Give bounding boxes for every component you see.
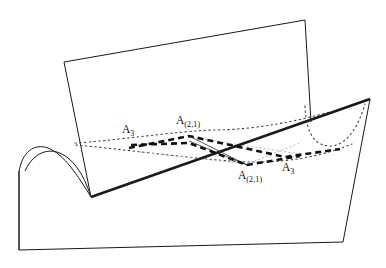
vertical-plane-group [64, 20, 311, 197]
geometry-figure: A3 A(2,1) A(2,1) A3 [0, 0, 386, 268]
base-surface-bottom-edge [19, 242, 343, 250]
label-a3-upper-left-subscript: 3 [130, 129, 134, 138]
base-surface-right-edge [343, 99, 370, 242]
label-a21-upper: A(2,1) [176, 115, 200, 129]
faint-dotted-crossing-b [247, 143, 300, 164]
label-a3-lower-right: A3 [282, 162, 294, 176]
label-a3-upper-left: A3 [122, 124, 134, 138]
label-a3-lower-right-subscript: 3 [290, 167, 294, 176]
figure-canvas [0, 0, 386, 268]
saddle-hump-inner-curve [25, 151, 91, 197]
vertical-plane-face [64, 20, 311, 197]
label-a21-upper-subscript: (2,1) [184, 120, 200, 129]
label-a21-lower: A(2,1) [238, 170, 262, 184]
label-a21-lower-subscript: (2,1) [246, 175, 262, 184]
